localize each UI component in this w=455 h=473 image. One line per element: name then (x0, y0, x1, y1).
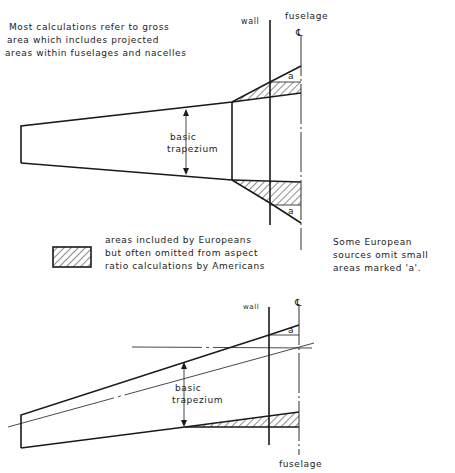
legend-line: areas included by Europeans (105, 234, 265, 247)
area-a-label-upper: a (288, 71, 294, 81)
area-a-label-swept: a (288, 325, 294, 335)
arrow-down-icon (183, 168, 189, 175)
arrow-down-icon (181, 420, 187, 427)
trapezium-label-trapezium: trapezium (167, 144, 218, 154)
note-line: areas within fuselages and nacelles (5, 47, 186, 60)
side-note-line: Some European (333, 236, 428, 249)
wall-label-swept: wall (243, 303, 259, 311)
side-note-line: areas marked 'a'. (333, 262, 428, 275)
fuselage-label-swept: fuselage (279, 459, 322, 469)
centerline-icon: ℄ (295, 27, 303, 38)
legend-hatch-swatch (53, 247, 91, 267)
hatched-area-upper (232, 82, 301, 102)
trapezium-label-trapezium-swept: trapezium (172, 395, 223, 405)
trapezium-label-basic: basic (170, 132, 196, 142)
fuselage-label: fuselage (285, 11, 328, 21)
european-sources-note: Some European sources omit small areas m… (333, 236, 428, 275)
horizontal-reference-line (132, 347, 312, 348)
quarter-chord-line (8, 343, 314, 427)
legend-text: areas included by Europeans but often om… (105, 234, 265, 273)
gross-area-note: Most calculations refer to gross area wh… (7, 21, 186, 60)
swept-trailing-edge (21, 427, 299, 448)
centerline-icon: ℄ (294, 297, 302, 308)
legend-line: ratio calculations by Americans (105, 260, 265, 273)
note-line: Most calculations refer to gross (7, 21, 186, 34)
arrow-up-icon (183, 109, 189, 116)
side-note-line: sources omit small (333, 249, 428, 262)
note-line: area which includes projected (7, 34, 186, 47)
trapezium-label-basic-swept: basic (175, 383, 201, 393)
swept-wing-diagram: basic trapezium a wall ℄ fuselage (8, 297, 322, 469)
legend-line: but often omitted from aspect (105, 247, 265, 260)
wall-label: wall (241, 17, 259, 26)
area-a-label-lower: a (288, 206, 294, 216)
wing-leading-edge (21, 66, 301, 163)
